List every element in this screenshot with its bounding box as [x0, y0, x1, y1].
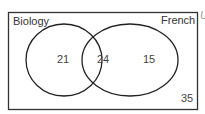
biology-label: Biology: [13, 16, 49, 27]
intersection-count: 24: [97, 54, 109, 65]
outside-count: 35: [181, 93, 193, 104]
french-only-count: 15: [143, 54, 155, 65]
french-label: French: [161, 15, 195, 26]
biology-only-count: 21: [57, 54, 69, 65]
universal-set-symbol: U: [200, 10, 205, 21]
